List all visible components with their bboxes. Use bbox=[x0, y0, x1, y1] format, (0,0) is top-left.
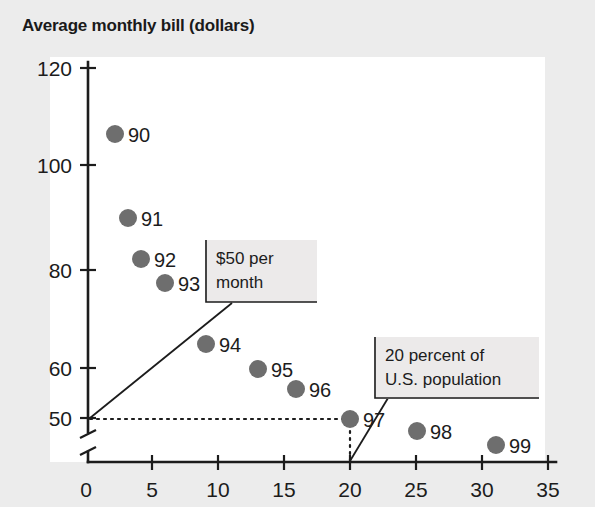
x-tick-labels: 0 5 10 15 20 25 30 35 bbox=[80, 478, 560, 501]
data-point-label-90: 90 bbox=[128, 124, 150, 146]
annotation-twenty-percent-population: 20 percent of U.S. population bbox=[374, 337, 539, 399]
y-tick-labels: 120 100 80 60 50 bbox=[37, 57, 72, 430]
data-point-95[interactable]: 95 bbox=[249, 359, 293, 381]
callout-fifty-line-2: month bbox=[216, 273, 263, 292]
data-point-97[interactable]: 97 bbox=[341, 409, 385, 431]
x-tick-label-25: 25 bbox=[404, 478, 427, 501]
data-point-label-92: 92 bbox=[154, 249, 176, 271]
data-point-96[interactable]: 96 bbox=[287, 379, 331, 401]
data-dot-97[interactable] bbox=[341, 410, 359, 428]
data-point-label-93: 93 bbox=[178, 273, 200, 295]
x-tick-label-35: 35 bbox=[536, 478, 559, 501]
data-point-91[interactable]: 91 bbox=[119, 208, 163, 230]
data-point-92[interactable]: 92 bbox=[132, 249, 176, 271]
leader-line-fifty-per-month bbox=[90, 303, 232, 418]
data-dot-94[interactable] bbox=[197, 335, 215, 353]
data-dot-93[interactable] bbox=[156, 274, 174, 292]
data-point-99[interactable]: 99 bbox=[487, 435, 531, 457]
x-tick-label-10: 10 bbox=[206, 478, 229, 501]
reference-lines bbox=[90, 419, 350, 460]
data-dot-95[interactable] bbox=[249, 360, 267, 378]
callout-twenty-line-1: 20 percent of bbox=[385, 346, 485, 365]
x-tick-label-0: 0 bbox=[80, 478, 92, 501]
callout-fifty-line-1: $50 per bbox=[216, 249, 274, 268]
x-tick-label-20: 20 bbox=[338, 478, 361, 501]
chart-page: Average monthly bill (dollars) 120 100 8… bbox=[0, 0, 595, 507]
callout-leaders bbox=[90, 303, 408, 461]
data-point-label-98: 98 bbox=[430, 421, 452, 443]
y-axis bbox=[80, 62, 96, 462]
data-point-label-91: 91 bbox=[141, 208, 163, 230]
data-dot-91[interactable] bbox=[119, 209, 137, 227]
data-dot-96[interactable] bbox=[287, 380, 305, 398]
data-point-label-99: 99 bbox=[509, 435, 531, 457]
data-dot-98[interactable] bbox=[408, 422, 426, 440]
x-tick-label-30: 30 bbox=[470, 478, 493, 501]
y-tick-label-120: 120 bbox=[37, 57, 72, 80]
y-tick-label-60: 60 bbox=[49, 357, 72, 380]
data-point-label-94: 94 bbox=[219, 334, 241, 356]
chart-svg: 120 100 80 60 50 0 5 10 15 20 25 30 35 bbox=[0, 0, 595, 507]
x-tick-label-5: 5 bbox=[146, 478, 158, 501]
data-point-label-95: 95 bbox=[271, 359, 293, 381]
data-point-label-97: 97 bbox=[363, 409, 385, 431]
data-points: 90 91 92 93 94 95 bbox=[106, 124, 531, 457]
data-point-90[interactable]: 90 bbox=[106, 124, 150, 146]
x-tick-label-15: 15 bbox=[272, 478, 295, 501]
data-dot-90[interactable] bbox=[106, 125, 124, 143]
y-tick-label-100: 100 bbox=[37, 154, 72, 177]
data-point-label-96: 96 bbox=[309, 379, 331, 401]
callout-twenty-line-2: U.S. population bbox=[385, 370, 501, 389]
y-tick-label-80: 80 bbox=[49, 259, 72, 282]
data-point-94[interactable]: 94 bbox=[197, 334, 241, 356]
data-point-98[interactable]: 98 bbox=[408, 421, 452, 443]
data-point-93[interactable]: 93 bbox=[156, 273, 200, 295]
data-dot-99[interactable] bbox=[487, 436, 505, 454]
y-tick-label-50: 50 bbox=[49, 407, 72, 430]
data-dot-92[interactable] bbox=[132, 250, 150, 268]
annotation-fifty-per-month: $50 per month bbox=[205, 240, 317, 302]
